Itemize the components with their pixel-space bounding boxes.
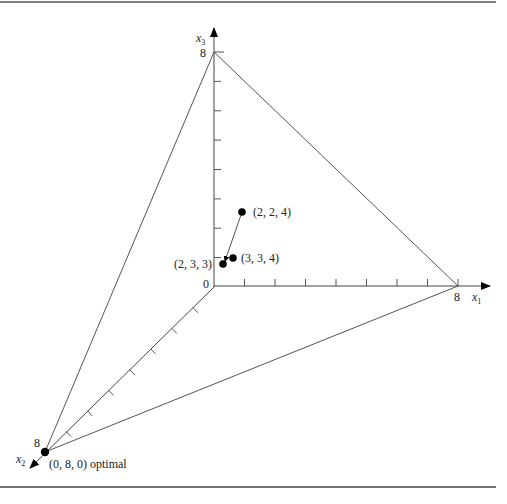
- x1-max-label: 8: [454, 290, 460, 304]
- x2-axis: [30, 287, 214, 468]
- x3-max-label: 8: [200, 46, 206, 60]
- point-2-2-4: [238, 208, 246, 216]
- origin-label: 0: [203, 277, 209, 291]
- label-0-8-0-optimal: (0, 8, 0) optimal: [49, 457, 127, 471]
- x1-axis: [214, 279, 490, 286]
- x1-axis-label: x1: [471, 290, 481, 306]
- simplex-diagram: x3 8 x1 8 x2 8 0 (2, 2, 4) (3, 3, 4) (2,…: [0, 0, 507, 504]
- point-3-3-4: [229, 254, 237, 262]
- label-2-2-4: (2, 2, 4): [253, 205, 291, 219]
- x2-max-label: 8: [34, 436, 40, 450]
- path-segment: [225, 212, 242, 261]
- x3-axis: [214, 28, 224, 287]
- point-0-8-0-optimal: [41, 448, 49, 456]
- x3-axis-label: x3: [195, 31, 205, 47]
- x2-axis-label: x2: [15, 452, 25, 468]
- label-2-3-3: (2, 3, 3): [174, 257, 212, 271]
- label-3-3-4: (3, 3, 4): [241, 251, 279, 265]
- point-2-3-3: [219, 260, 227, 268]
